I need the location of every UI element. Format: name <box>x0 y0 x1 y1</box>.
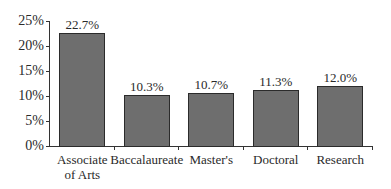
y-tick-label: 5% <box>0 114 44 128</box>
category-label: Research <box>300 152 380 167</box>
bar-value-label: 12.0% <box>305 71 375 84</box>
y-tick-mark <box>46 146 50 147</box>
bar <box>253 90 299 148</box>
y-tick-mark <box>46 96 50 97</box>
y-tick-label: 15% <box>0 64 44 78</box>
y-tick-mark <box>46 71 50 72</box>
bar-value-label: 22.7% <box>47 18 117 31</box>
x-tick-mark <box>114 146 115 150</box>
bar-value-label: 11.3% <box>241 75 311 88</box>
bar <box>124 95 170 148</box>
bar <box>59 33 105 148</box>
y-tick-label: 20% <box>0 39 44 53</box>
y-tick-label: 0% <box>0 139 44 153</box>
bar-value-label: 10.3% <box>112 80 182 93</box>
bar <box>188 93 234 148</box>
y-tick-mark <box>46 121 50 122</box>
y-tick-mark <box>46 46 50 47</box>
bar <box>317 86 363 147</box>
bar-value-label: 10.7% <box>176 78 246 91</box>
x-tick-mark <box>178 146 179 150</box>
y-tick-label: 25% <box>0 14 44 28</box>
y-axis <box>49 21 50 147</box>
x-tick-mark <box>307 146 308 150</box>
x-tick-mark <box>243 146 244 150</box>
y-tick-label: 10% <box>0 89 44 103</box>
x-tick-mark <box>372 146 373 150</box>
bar-chart: 0%5%10%15%20%25% 22.7%Associateof Arts10… <box>0 0 391 189</box>
